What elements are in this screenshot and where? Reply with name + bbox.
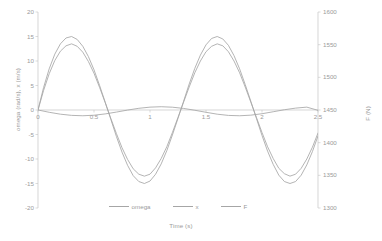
- legend-swatch-icon: [221, 206, 241, 207]
- y-axis-right-tick: 1600: [323, 8, 349, 15]
- chart-container: 20151050-5-10-15-20 16001550150014501400…: [0, 0, 382, 241]
- legend-item-x[interactable]: x: [173, 204, 199, 210]
- legend-label: x: [196, 204, 199, 210]
- plot-area: [38, 12, 318, 208]
- y-axis-right-tick: 1550: [323, 41, 349, 48]
- y-axis-left-tick: -20: [14, 204, 34, 211]
- y-axis-right-tick: 1400: [323, 139, 349, 146]
- legend-label: F: [244, 204, 248, 210]
- y-axis-left-tick: -10: [14, 155, 34, 162]
- y-axis-right-tick: 1450: [323, 106, 349, 113]
- y-axis-left-label: omega (rad/s), x (m/s): [14, 45, 21, 155]
- x-axis-label: Time (s): [121, 222, 241, 229]
- series-line-F: [38, 107, 318, 116]
- y-axis-left-tick: 20: [14, 8, 34, 15]
- legend-swatch-icon: [109, 206, 129, 207]
- series-line-omega: [38, 37, 318, 184]
- legend-swatch-icon: [173, 206, 193, 207]
- y-axis-right-tick: 1300: [323, 204, 349, 211]
- y-axis-left-tick: 15: [14, 33, 34, 40]
- y-axis-left-tick: -15: [14, 180, 34, 187]
- series-lines: [38, 12, 318, 208]
- series-line-x: [38, 44, 318, 176]
- chart-legend: omegaxF: [38, 200, 318, 214]
- legend-item-F[interactable]: F: [221, 204, 248, 210]
- y-axis-right-tick: 1350: [323, 171, 349, 178]
- y-axis-right-tick: 1500: [323, 73, 349, 80]
- legend-label: omega: [132, 204, 151, 210]
- y-axis-right-label: F (N): [364, 59, 371, 169]
- legend-item-omega[interactable]: omega: [109, 204, 151, 210]
